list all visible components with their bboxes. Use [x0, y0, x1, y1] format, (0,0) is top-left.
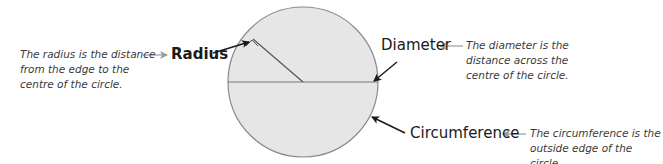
- radius-label: Radius: [171, 47, 228, 62]
- radius-description: The radius is the distance from the edge…: [20, 47, 155, 92]
- circumference-pointer-arrow: [372, 117, 405, 133]
- diameter-label: Diameter: [381, 38, 451, 53]
- circumference-label: Circumference: [410, 126, 519, 141]
- diameter-description: The diameter is the distance across the …: [466, 38, 569, 83]
- circumference-description: The circumference is the outside edge of…: [530, 126, 663, 164]
